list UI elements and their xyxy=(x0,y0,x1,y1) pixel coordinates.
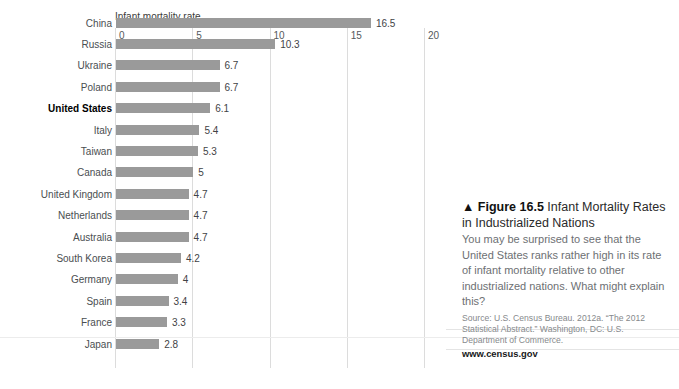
bar-value-label: 5 xyxy=(198,167,204,178)
caption-body: You may be surprised to see that the Uni… xyxy=(462,232,667,310)
category-label: China xyxy=(86,17,112,28)
caption-source: Source: U.S. Census Bureau. 2012a. “The … xyxy=(462,313,667,347)
category-label: Japan xyxy=(85,338,112,349)
bar-row: Taiwan5.3 xyxy=(0,140,679,161)
caption-figure-number: Figure 16.5 xyxy=(478,200,544,214)
bar xyxy=(116,18,371,28)
caption-marker-icon: ▲ xyxy=(462,200,474,214)
bar-value-label: 4.7 xyxy=(194,188,208,199)
bar-value-label: 6.7 xyxy=(225,81,239,92)
category-label: France xyxy=(81,317,112,328)
category-label: Australia xyxy=(73,231,112,242)
bar xyxy=(116,274,178,284)
category-label: South Korea xyxy=(56,252,112,263)
bar xyxy=(116,39,275,49)
category-label: Ukraine xyxy=(78,60,112,71)
bar-value-label: 6.7 xyxy=(225,60,239,71)
bar xyxy=(116,296,169,306)
infant-mortality-figure: Infant mortality rate 05101520 China16.5… xyxy=(0,0,679,389)
category-label: Canada xyxy=(77,167,112,178)
category-label: Spain xyxy=(86,295,112,306)
bar xyxy=(116,146,198,156)
bar xyxy=(116,125,199,135)
bar-value-label: 3.3 xyxy=(172,317,186,328)
bar-row: Russia10.3 xyxy=(0,33,679,54)
category-label: Italy xyxy=(94,124,112,135)
category-label: Netherlands xyxy=(58,210,112,221)
bar-value-label: 4.2 xyxy=(186,252,200,263)
bar xyxy=(116,339,159,349)
bar xyxy=(116,317,167,327)
figure-caption: ▲ Figure 16.5 Infant Mortality Rates in … xyxy=(462,200,667,359)
category-label: Germany xyxy=(71,274,112,285)
bar-value-label: 16.5 xyxy=(376,17,395,28)
bar-row: Italy5.4 xyxy=(0,119,679,140)
bar xyxy=(116,210,189,220)
category-label: Poland xyxy=(81,81,112,92)
bar xyxy=(116,82,220,92)
bar-value-label: 5.4 xyxy=(204,124,218,135)
bar-row: Canada5 xyxy=(0,162,679,183)
bar xyxy=(116,189,189,199)
caption-heading: ▲ Figure 16.5 Infant Mortality Rates in … xyxy=(462,200,667,231)
caption-url: www.census.gov xyxy=(462,348,667,359)
bar xyxy=(116,253,181,263)
bar-row: Poland6.7 xyxy=(0,76,679,97)
bar-value-label: 10.3 xyxy=(280,39,299,50)
bar-value-label: 3.4 xyxy=(174,295,188,306)
bar-value-label: 4.7 xyxy=(194,210,208,221)
bar-row: Ukraine6.7 xyxy=(0,55,679,76)
bar-value-label: 4 xyxy=(183,274,189,285)
bar-value-label: 2.8 xyxy=(164,338,178,349)
category-label: United Kingdom xyxy=(41,188,112,199)
category-label: United States xyxy=(48,103,112,114)
bar-row: United States6.1 xyxy=(0,98,679,119)
bar xyxy=(116,103,210,113)
category-label: Russia xyxy=(81,39,112,50)
bar xyxy=(116,232,189,242)
bar-value-label: 5.3 xyxy=(203,146,217,157)
bar-value-label: 6.1 xyxy=(215,103,229,114)
category-label: Taiwan xyxy=(81,146,112,157)
bar-row: China16.5 xyxy=(0,12,679,33)
bar-value-label: 4.7 xyxy=(194,231,208,242)
bar xyxy=(116,167,193,177)
bar xyxy=(116,60,220,70)
